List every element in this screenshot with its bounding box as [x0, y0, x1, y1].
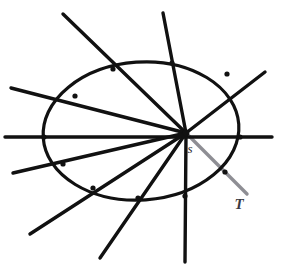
node-left-mid: [41, 134, 46, 139]
node-left-upper: [72, 93, 77, 98]
node-top-left: [110, 66, 115, 71]
node-upper-right: [224, 71, 229, 76]
point-label-s: s: [187, 141, 192, 156]
node-bottom: [135, 195, 140, 200]
geometry-diagram: s T: [0, 0, 283, 271]
node-right-mid: [237, 134, 242, 139]
pencil-point-dot: [183, 130, 190, 137]
node-tangent-cross: [222, 169, 227, 174]
node-bottom-right: [182, 193, 187, 198]
node-left-lower: [60, 161, 65, 166]
node-top: [169, 60, 174, 65]
tangent-label-T: T: [234, 196, 244, 212]
figure-canvas: s T: [0, 0, 283, 271]
node-lower-left: [90, 185, 95, 190]
